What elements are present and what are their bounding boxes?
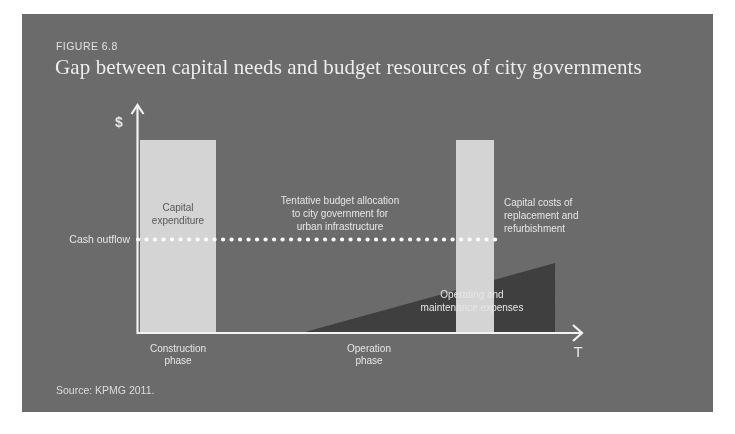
y-axis-label: $ bbox=[115, 114, 123, 130]
capital-costs-label-line2: replacement and bbox=[504, 210, 579, 221]
operating-maintenance-area bbox=[215, 263, 555, 333]
x-axis-label: T bbox=[573, 343, 582, 360]
capital-expenditure-label-line1: Capital bbox=[162, 202, 193, 213]
construction-phase-label-line2: phase bbox=[164, 355, 192, 366]
operating-maintenance-label-line1: Operating and bbox=[440, 289, 503, 300]
construction-phase-label-line1: Construction bbox=[150, 343, 206, 354]
tentative-budget-label-line3: urban infrastructure bbox=[297, 221, 384, 232]
cash-outflow-label: Cash outflow bbox=[69, 233, 130, 245]
capital-costs-label-line3: refurbishment bbox=[504, 223, 565, 234]
operation-phase-label-line1: Operation bbox=[347, 343, 391, 354]
tentative-budget-label-line1: Tentative budget allocation bbox=[281, 195, 399, 206]
tentative-budget-label-line2: to city government for bbox=[292, 208, 389, 219]
capital-costs-label-line1: Capital costs of bbox=[504, 197, 573, 208]
operation-phase-label-line2: phase bbox=[355, 355, 383, 366]
operating-maintenance-label-line2: maintenance expenses bbox=[421, 302, 524, 313]
figure-panel: FIGURE 6.8 Gap between capital needs and… bbox=[22, 14, 713, 412]
chart-plot-area: $ T Cash outflow Construction phase Oper… bbox=[22, 14, 713, 412]
capital-expenditure-label-line2: expenditure bbox=[152, 215, 205, 226]
source-note: Source: KPMG 2011. bbox=[56, 384, 154, 396]
capital-expenditure-bar bbox=[140, 140, 216, 333]
